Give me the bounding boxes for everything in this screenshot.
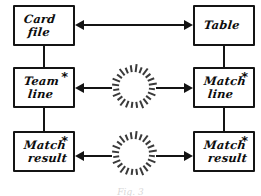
connector-team-line-to-match-result <box>43 108 45 131</box>
node-team-line-line2: line <box>23 88 54 101</box>
burst-ray <box>135 169 137 175</box>
burst-ray <box>148 159 156 163</box>
node-card-file-content: Card file <box>15 7 73 44</box>
arrow-head-right-icon <box>184 20 193 30</box>
burst-ray <box>117 74 123 79</box>
node-match-line-line1: Match <box>203 75 246 88</box>
node-match-result-left-content: Match result * <box>15 133 73 170</box>
burst-ray <box>125 68 129 74</box>
burst-ray <box>149 150 157 153</box>
node-match-result-left-line1: Match <box>23 139 66 152</box>
burst-ray <box>114 88 120 90</box>
node-team-line-line1: Team <box>23 75 59 88</box>
connector-card-file-to-table <box>75 18 193 32</box>
burst-ray <box>139 167 144 175</box>
burst-ray <box>130 65 133 72</box>
node-card-file-line2: file <box>23 26 50 39</box>
burst-ray <box>131 102 133 108</box>
burst-ray <box>117 141 123 146</box>
burst-ray <box>112 84 119 86</box>
burst-ray <box>135 102 137 108</box>
burst-row-3-icon <box>104 130 164 178</box>
diagram-canvas: Card file Table Team line * Match line * <box>0 0 261 196</box>
burst-ray <box>145 95 150 100</box>
figure-caption: Fig. 3 <box>0 187 261 196</box>
burst-ray <box>112 78 120 83</box>
connector-card-file-to-team-line <box>43 46 45 67</box>
burst-ray <box>147 78 154 82</box>
connector-table-to-match-line <box>223 46 225 67</box>
arrow-head-right-icon <box>184 83 193 93</box>
node-card-file-line1: Card <box>23 13 56 26</box>
node-match-result-left-marker: * <box>61 134 68 147</box>
burst-ray <box>143 165 148 171</box>
burst-ray <box>112 151 119 153</box>
node-card-file[interactable]: Card file <box>13 5 75 46</box>
burst-ray <box>145 162 150 167</box>
burst-ray <box>139 67 143 73</box>
arrow-head-right-icon <box>184 151 193 161</box>
burst-ray <box>135 64 138 72</box>
arrow-shaft <box>83 24 185 26</box>
burst-ray <box>148 92 156 96</box>
burst-ray <box>145 141 150 146</box>
connector-match-line-to-match-result <box>223 108 225 131</box>
burst-ray <box>149 88 155 90</box>
burst-ray <box>119 136 125 143</box>
node-match-line-marker: * <box>241 70 248 83</box>
node-match-result-right-line1: Match <box>203 139 246 152</box>
node-match-result-right-content: Match result * <box>195 133 253 170</box>
burst-ray <box>125 168 129 175</box>
node-team-line-marker: * <box>61 70 68 83</box>
node-match-result-left-line2: result <box>23 152 67 165</box>
node-team-line[interactable]: Team line * <box>13 67 75 108</box>
node-match-result-left[interactable]: Match result * <box>13 131 75 172</box>
node-match-result-right-line2: result <box>203 152 247 165</box>
node-match-result-right-marker: * <box>241 134 248 147</box>
burst-ray <box>143 98 148 104</box>
burst-ray <box>139 100 144 108</box>
node-match-line-line2: line <box>203 88 234 101</box>
burst-ray <box>114 155 120 157</box>
burst-ray <box>130 132 133 139</box>
burst-ray <box>135 131 138 139</box>
burst-ray <box>125 101 129 108</box>
node-table-content: Table <box>195 7 253 44</box>
burst-ray <box>139 134 143 140</box>
burst-row-2-icon <box>104 63 164 111</box>
node-table[interactable]: Table <box>193 5 255 46</box>
node-match-line[interactable]: Match line * <box>193 67 255 108</box>
node-match-result-right[interactable]: Match result * <box>193 131 255 172</box>
burst-ray <box>125 135 129 141</box>
burst-ray <box>131 169 133 175</box>
burst-ray <box>119 69 125 76</box>
node-match-line-content: Match line * <box>195 69 253 106</box>
node-table-line1: Table <box>203 19 240 32</box>
burst-ray <box>149 83 157 86</box>
node-team-line-content: Team line * <box>15 69 73 106</box>
burst-ray <box>149 155 155 157</box>
burst-ray <box>147 145 154 149</box>
burst-ray <box>145 74 150 79</box>
burst-ray <box>112 145 120 150</box>
